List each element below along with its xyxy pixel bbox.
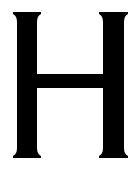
serif-h-icon	[0, 0, 140, 171]
